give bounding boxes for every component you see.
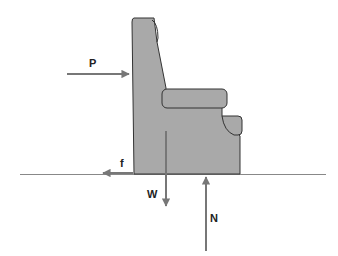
chair-armrest — [162, 89, 227, 108]
force-f: f — [103, 157, 133, 173]
label-W: W — [147, 188, 158, 200]
force-N: N — [206, 177, 218, 251]
label-N: N — [210, 212, 218, 224]
label-f: f — [120, 157, 124, 169]
label-P: P — [89, 57, 96, 69]
free-body-diagram: P f W N — [0, 0, 338, 256]
force-P: P — [67, 57, 129, 74]
armchair — [132, 18, 242, 174]
